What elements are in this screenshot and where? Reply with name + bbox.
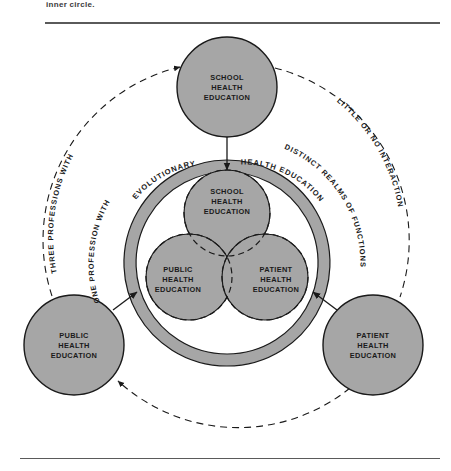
outer-label-patient-line1: PATIENT [357,331,390,340]
outer-label-school-line1: SCHOOL [210,73,244,82]
outer-label-public-line2: HEALTH [58,341,90,350]
inner-label-school-line3: EDUCATION [204,207,251,216]
inner-label-public-line3: EDUCATION [155,285,202,294]
inner-label-patient-line1: PATIENT [260,265,293,274]
outer-label-patient-line2: HEALTH [357,341,389,350]
outer-label-patient-line3: EDUCATION [350,351,397,360]
inner-label-public-line1: PUBLIC [163,265,193,274]
outer-label-school-line3: EDUCATION [204,93,251,102]
inner-label-school-line1: SCHOOL [210,187,244,196]
inner-label-school-line2: HEALTH [211,197,243,206]
dashed-arc-patient-to-public [118,381,350,428]
inner-label-patient-line2: HEALTH [260,275,292,284]
inner-label-patient-line3: EDUCATION [253,285,300,294]
outer-label-public-line3: EDUCATION [51,351,98,360]
label-three-professions-with: THREE PROFESSIONS WITH [46,152,75,275]
concept-diagram: SCHOOL HEALTH EDUCATION PUBLIC HEALTH ED… [0,0,451,471]
label-one-profession-with: ONE PROFESSION WITH [87,198,113,305]
outer-label-public-line1: PUBLIC [59,331,89,340]
inner-label-public-line2: HEALTH [162,275,194,284]
outer-label-school-line2: HEALTH [211,83,243,92]
